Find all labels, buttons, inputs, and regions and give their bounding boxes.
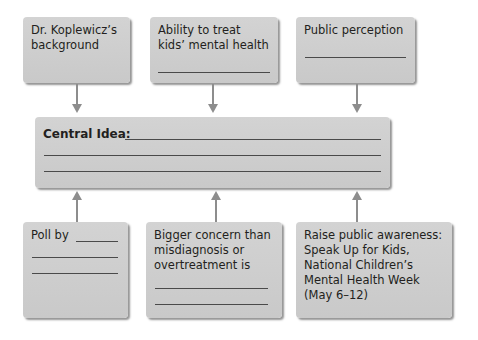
arrow-down-2 xyxy=(212,84,214,106)
top-box-koplewicz-background: Dr. Koplewicz’s background xyxy=(23,17,130,83)
bottom-box-poll: Poll by xyxy=(23,222,128,318)
central-idea-line-2[interactable] xyxy=(44,155,381,156)
answer-line[interactable] xyxy=(32,273,118,274)
answer-line[interactable] xyxy=(76,241,118,242)
arrow-head-down-icon xyxy=(208,104,218,113)
central-idea-box: Central Idea: xyxy=(35,117,390,188)
bottom-box-bigger-concern: Bigger concern than misdiagnosis or over… xyxy=(146,222,282,318)
arrow-head-down-icon xyxy=(72,104,82,113)
arrow-up-2 xyxy=(215,198,217,222)
arrow-down-1 xyxy=(76,84,78,106)
answer-line[interactable] xyxy=(155,304,268,305)
bottom-box-raise-awareness: Raise public awareness: Speak Up for Kid… xyxy=(296,222,452,318)
arrow-up-3 xyxy=(356,198,358,222)
central-idea-line-3[interactable] xyxy=(44,171,381,172)
arrow-up-1 xyxy=(76,198,78,222)
answer-line[interactable] xyxy=(305,57,406,58)
top-box-label: Ability to treat kids’ mental health xyxy=(158,23,270,53)
answer-line[interactable] xyxy=(158,72,270,73)
top-box-label: Dr. Koplewicz’s background xyxy=(31,23,122,53)
bottom-box-label: Bigger concern than misdiagnosis or over… xyxy=(154,228,274,273)
arrow-down-3 xyxy=(356,84,358,106)
top-box-public-perception: Public perception xyxy=(296,17,415,83)
central-idea-diagram: Dr. Koplewicz’s background Ability to tr… xyxy=(0,0,478,340)
top-box-ability-to-treat: Ability to treat kids’ mental health xyxy=(150,17,278,83)
bottom-box-label: Raise public awareness: Speak Up for Kid… xyxy=(304,228,444,303)
central-idea-line-1[interactable] xyxy=(125,139,381,140)
arrow-head-down-icon xyxy=(352,104,362,113)
answer-line[interactable] xyxy=(155,288,268,289)
answer-line[interactable] xyxy=(32,257,118,258)
central-idea-label: Central Idea: xyxy=(43,127,131,142)
top-box-label: Public perception xyxy=(304,23,407,38)
